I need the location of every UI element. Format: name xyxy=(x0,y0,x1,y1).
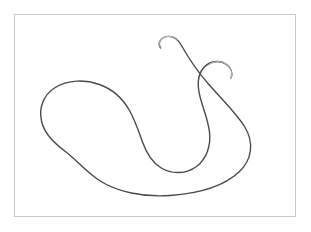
figure-root xyxy=(0,0,311,232)
figure-caption xyxy=(14,219,296,231)
curve-main-stroke xyxy=(41,36,251,195)
curve-left-hook-tip xyxy=(159,36,177,47)
curve-right-hook-tip xyxy=(210,62,232,78)
curve-canvas xyxy=(0,0,311,232)
